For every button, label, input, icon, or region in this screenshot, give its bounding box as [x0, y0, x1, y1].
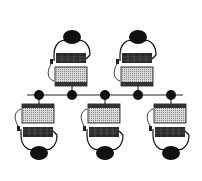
node-2	[67, 90, 77, 100]
workstation-top-left	[48, 30, 90, 95]
workstation-bottom-left	[15, 95, 57, 160]
bus-topology-diagram	[0, 0, 202, 181]
diagram-canvas	[0, 0, 202, 181]
node-3	[100, 90, 110, 100]
node-5	[166, 90, 176, 100]
node-4	[133, 90, 143, 100]
workstation-top-right	[114, 30, 156, 95]
workstation-bottom-center	[81, 95, 123, 160]
workstation-bottom-right	[147, 95, 189, 160]
node-1	[34, 90, 44, 100]
